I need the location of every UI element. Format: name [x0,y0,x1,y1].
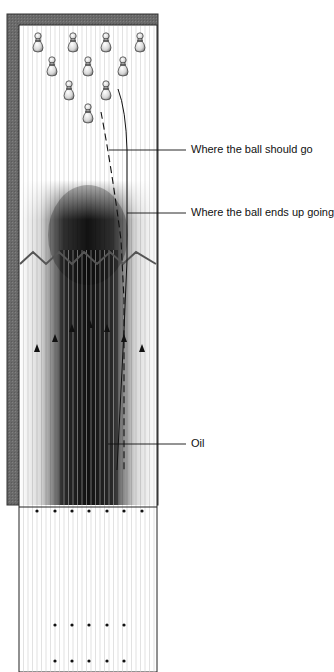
oil-pattern [20,180,156,505]
label-oil: Oil [191,437,204,449]
label-ends-up: Where the ball ends up going [191,206,334,218]
label-should-go: Where the ball should go [191,143,313,155]
